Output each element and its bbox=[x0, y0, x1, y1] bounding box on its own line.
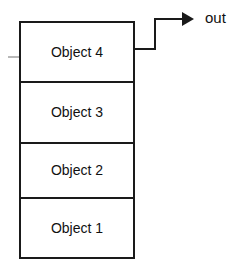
stack-cell-label-object-2: Object 2 bbox=[51, 162, 103, 178]
stack-cell-label-object-1: Object 1 bbox=[51, 220, 103, 236]
output-connector-line bbox=[134, 19, 182, 49]
stack-cell-label-object-4: Object 4 bbox=[51, 44, 103, 60]
diagram-canvas: Object 4 Object 3 Object 2 Object 1 out bbox=[0, 0, 247, 273]
object-stack-diagram: Object 4 Object 3 Object 2 Object 1 out bbox=[0, 0, 247, 273]
out-label: out bbox=[205, 9, 227, 26]
arrow-head-icon bbox=[182, 12, 194, 26]
stack-cell-label-object-3: Object 3 bbox=[51, 104, 103, 120]
